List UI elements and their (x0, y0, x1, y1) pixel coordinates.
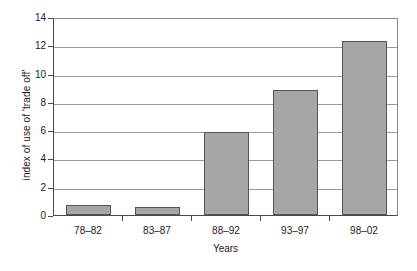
x-tick-mark (260, 216, 261, 221)
y-tick-label: 2 (20, 182, 46, 194)
y-tick-label: 0 (20, 210, 46, 222)
plot-area (53, 18, 398, 216)
y-tick-label: 4 (20, 153, 46, 165)
bar-chart-figure: index of use of 'trade off' 02468101214 … (0, 0, 417, 271)
x-axis-title: Years (53, 243, 398, 255)
x-tick-mark (191, 216, 192, 221)
x-tick-label: 98–02 (329, 225, 399, 237)
y-tick-label: 6 (20, 125, 46, 137)
x-tick-label: 88–92 (191, 225, 261, 237)
x-tick-label: 93–97 (260, 225, 330, 237)
x-tick-mark (329, 216, 330, 221)
bar-93–97 (273, 90, 318, 215)
y-tick-mark (48, 216, 53, 217)
y-tick-label: 12 (20, 40, 46, 52)
y-tick-mark (48, 103, 53, 104)
x-tick-label: 83–87 (122, 225, 192, 237)
y-tick-mark (48, 131, 53, 132)
x-tick-label: 78–82 (53, 225, 123, 237)
y-tick-mark (48, 75, 53, 76)
y-tick-label: 14 (20, 12, 46, 24)
y-tick-label: 10 (20, 69, 46, 81)
x-tick-mark (122, 216, 123, 221)
y-tick-mark (48, 159, 53, 160)
y-tick-mark (48, 188, 53, 189)
y-tick-label: 8 (20, 97, 46, 109)
bar-88–92 (204, 132, 249, 215)
bar-98–02 (342, 41, 387, 215)
bar-83–87 (135, 207, 180, 215)
bar-78–82 (66, 205, 111, 215)
y-tick-mark (48, 18, 53, 19)
y-tick-mark (48, 46, 53, 47)
